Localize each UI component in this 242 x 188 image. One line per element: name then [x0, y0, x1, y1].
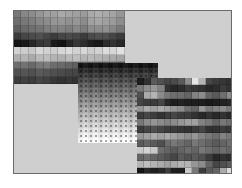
grid-cell: [199, 133, 206, 140]
grid-cell: [185, 147, 192, 154]
grid-cell: [29, 26, 36, 33]
grid-cell: [66, 11, 73, 18]
grid-cell: [227, 119, 232, 126]
grid-cell: [117, 33, 124, 40]
grid-cell: [206, 161, 213, 168]
grid-cell: [58, 77, 65, 84]
grid-cell: [220, 106, 227, 113]
grid-cell: [88, 33, 95, 40]
grid-cell: [185, 92, 192, 99]
grid-cell: [51, 55, 58, 62]
grid-cell: [165, 168, 172, 174]
grid-cell: [158, 85, 165, 92]
grid-cell: [192, 168, 199, 174]
grid-cell: [29, 69, 36, 76]
grid-cell: [171, 161, 178, 168]
grid-cell: [117, 18, 124, 25]
grid-cell: [144, 119, 151, 126]
grid-cell: [220, 99, 227, 106]
grid-cell: [66, 33, 73, 40]
grid-cell: [151, 85, 158, 92]
grid-cell: [66, 26, 73, 33]
grid-cell: [21, 47, 28, 54]
grid-cell: [220, 147, 227, 154]
grid-cell: [199, 112, 206, 119]
grid-cell: [88, 18, 95, 25]
grid-cell: [58, 40, 65, 47]
grid-cell: [171, 133, 178, 140]
grid-cell: [103, 11, 110, 18]
grid-cell: [66, 77, 73, 84]
grid-cell: [171, 92, 178, 99]
grid-cell: [44, 55, 51, 62]
grid-cell: [178, 78, 185, 85]
grid-cell: [36, 26, 43, 33]
grid-cell: [171, 106, 178, 113]
grid-cell: [213, 119, 220, 126]
grid-cell: [220, 126, 227, 133]
grid-cell: [213, 78, 220, 85]
grid-cell: [103, 40, 110, 47]
grid-cell: [171, 99, 178, 106]
grid-cell: [151, 168, 158, 174]
grid-cell: [158, 92, 165, 99]
figure-frame: [13, 10, 232, 174]
grid-cell: [158, 112, 165, 119]
grid-cell: [192, 140, 199, 147]
grid-cell: [199, 92, 206, 99]
grid-cell: [151, 112, 158, 119]
grid-cell: [192, 85, 199, 92]
grid-cell: [103, 55, 110, 62]
grid-cell: [185, 78, 192, 85]
grid-cell: [165, 112, 172, 119]
grid-cell: [199, 161, 206, 168]
grid-cell: [73, 55, 80, 62]
grid-cell: [171, 168, 178, 174]
grid-cell: [171, 119, 178, 126]
grid-cell: [144, 147, 151, 154]
grid-cell: [213, 154, 220, 161]
grid-cell: [14, 77, 21, 84]
grid-cell: [151, 78, 158, 85]
grid-cell: [137, 119, 144, 126]
grid-cell: [178, 106, 185, 113]
grid-cell: [227, 140, 232, 147]
grid-cell: [158, 99, 165, 106]
grid-cell: [88, 55, 95, 62]
grid-cell: [103, 47, 110, 54]
grid-cell: [227, 106, 232, 113]
grid-cell: [144, 92, 151, 99]
grid-cell: [110, 18, 117, 25]
grid-cell: [165, 99, 172, 106]
grid-cell: [21, 33, 28, 40]
grid-cell: [29, 62, 36, 69]
grid-cell: [81, 55, 88, 62]
grid-cell: [73, 26, 80, 33]
grid-cell: [21, 11, 28, 18]
grid-cell: [14, 11, 21, 18]
grid-cell: [213, 99, 220, 106]
grid-cell: [51, 11, 58, 18]
grid-cell: [213, 147, 220, 154]
grid-cell: [14, 69, 21, 76]
grid-cell: [58, 47, 65, 54]
grid-cell: [158, 154, 165, 161]
grid-cell: [213, 140, 220, 147]
grid-cell: [88, 40, 95, 47]
grid-cell: [58, 18, 65, 25]
grid-cell: [21, 18, 28, 25]
grid-cell: [103, 26, 110, 33]
grid-cell: [220, 140, 227, 147]
grid-cell: [199, 147, 206, 154]
grid-cell: [44, 26, 51, 33]
grid-cell: [220, 85, 227, 92]
grid-cell: [81, 33, 88, 40]
grid-cell: [178, 161, 185, 168]
grid-cell: [36, 33, 43, 40]
grid-cell: [178, 168, 185, 174]
grid-cell: [227, 126, 232, 133]
grid-cell: [73, 11, 80, 18]
grid-cell: [29, 77, 36, 84]
grid-cell: [36, 47, 43, 54]
grid-cell: [178, 154, 185, 161]
